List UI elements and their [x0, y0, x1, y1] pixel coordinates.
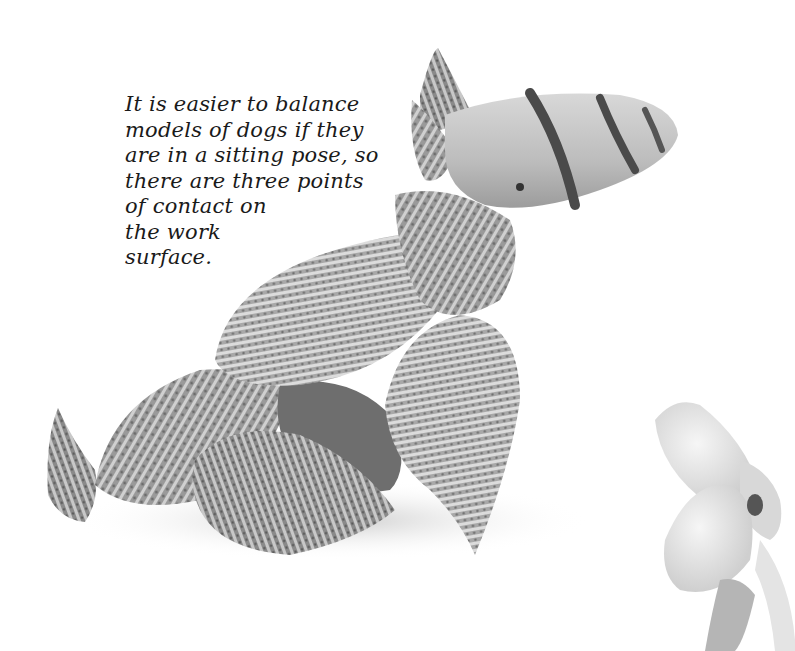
white-shell-lower: [664, 485, 753, 592]
caption-line: there are three points: [125, 169, 405, 195]
white-shell-stem: [705, 579, 755, 651]
caption-line: are in a sitting pose, so: [125, 143, 405, 169]
caption-line: It is easier to balance: [125, 92, 405, 118]
head-spot: [516, 183, 524, 191]
tail-shell: [47, 408, 96, 522]
caption-text: It is easier to balance models of dogs i…: [125, 92, 405, 271]
white-shell-figure: [655, 402, 795, 651]
caption-line: the work: [125, 220, 405, 246]
white-shell-right: [755, 540, 795, 651]
caption-line: models of dogs if they: [125, 118, 405, 144]
caption-line: surface.: [125, 245, 405, 271]
caption-line: of contact on: [125, 194, 405, 220]
white-shell-hole: [747, 494, 763, 516]
